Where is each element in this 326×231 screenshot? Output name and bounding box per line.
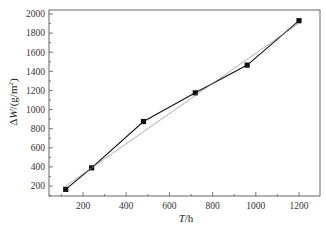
data-point-square-marker <box>141 119 146 124</box>
y-tick-label: 1000 <box>26 105 45 115</box>
data-point-square-marker <box>63 187 68 192</box>
y-tick-label: 200 <box>31 181 46 191</box>
y-tick-label: 400 <box>31 162 46 172</box>
data-point-square-marker <box>245 63 250 68</box>
fit-line <box>66 23 299 186</box>
x-tick-label: 800 <box>205 201 220 211</box>
x-tick-label: 400 <box>119 201 134 211</box>
data-point-square-marker <box>193 90 198 95</box>
y-tick-label: 2000 <box>26 9 45 19</box>
x-axis-ticks: 20040060080010001200 <box>61 192 308 211</box>
chart: 20040060080010001200 2004006008001000120… <box>0 0 326 231</box>
data-line <box>66 21 299 190</box>
series-layer <box>63 18 301 192</box>
x-tick-label: 1000 <box>246 201 265 211</box>
y-tick-label: 1800 <box>26 28 45 38</box>
y-tick-label: 800 <box>31 124 46 134</box>
x-tick-label: 600 <box>162 201 177 211</box>
data-point-square-marker <box>296 18 301 23</box>
y-tick-label: 1400 <box>26 67 45 77</box>
y-tick-label: 1600 <box>26 48 45 58</box>
y-axis-title: ΔW/(g/m2) <box>7 78 20 126</box>
x-axis-title: T/h <box>179 212 194 224</box>
y-tick-label: 1200 <box>26 86 45 96</box>
x-tick-label: 1200 <box>290 201 309 211</box>
x-tick-label: 200 <box>76 201 91 211</box>
y-tick-label: 600 <box>31 143 46 153</box>
